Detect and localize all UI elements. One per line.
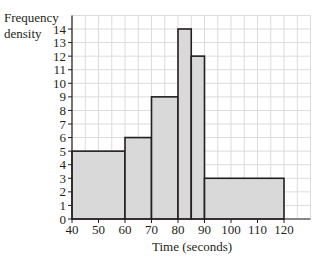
histogram-bar — [191, 56, 204, 219]
histogram-bar — [72, 151, 125, 219]
y-tick-label: 1 — [60, 198, 67, 213]
y-tick-label: 10 — [53, 76, 66, 91]
y-axis-ticks: 01234567891011121314 — [53, 22, 72, 227]
y-axis-label-line-2: density — [4, 26, 59, 42]
x-tick-label: 100 — [221, 222, 241, 237]
y-tick-label: 3 — [60, 171, 67, 186]
y-tick-label: 2 — [60, 184, 67, 199]
x-tick-label: 110 — [248, 222, 267, 237]
y-tick-label: 7 — [60, 117, 67, 132]
y-axis-label: Frequency density — [4, 10, 59, 42]
x-tick-label: 80 — [172, 222, 185, 237]
y-tick-label: 5 — [60, 144, 67, 159]
y-tick-label: 11 — [53, 62, 66, 77]
histogram-bar — [205, 178, 285, 219]
x-tick-label: 90 — [198, 222, 211, 237]
y-tick-label: 9 — [60, 89, 67, 104]
y-tick-label: 4 — [60, 157, 67, 172]
x-tick-label: 70 — [145, 222, 158, 237]
x-tick-label: 50 — [92, 222, 105, 237]
x-axis-ticks: 405060708090100110120 — [66, 219, 294, 237]
y-tick-label: 6 — [60, 130, 67, 145]
histogram-bar — [178, 29, 191, 219]
histogram-bar — [125, 138, 152, 219]
x-tick-label: 40 — [66, 222, 79, 237]
x-tick-label: 120 — [274, 222, 294, 237]
y-tick-label: 8 — [60, 103, 67, 118]
y-axis-label-line-1: Frequency — [4, 10, 59, 26]
histogram-bar — [152, 97, 179, 219]
x-axis-label-text: Time (seconds) — [152, 239, 232, 255]
x-tick-label: 60 — [119, 222, 132, 237]
y-tick-label: 12 — [53, 49, 66, 64]
